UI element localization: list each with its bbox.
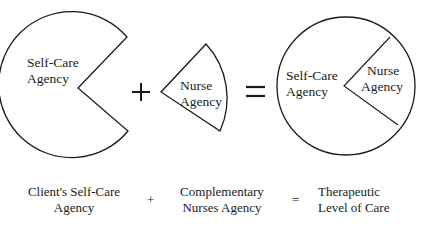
caption-therapeutic-line2: Level of Care [318,200,406,216]
self-care-label-line1: Self-Care [27,55,79,70]
caption-client-line2: Agency [18,200,130,216]
plus-operator-icon [132,83,150,101]
combined-nurse-label-line2: Agency [361,79,403,94]
caption-plus: + [147,192,154,208]
combined-self-care-label-line1: Self-Care [286,68,338,83]
caption-therapeutic-line1: Therapeutic [318,184,406,200]
caption-complementary-line1: Complementary [170,184,274,200]
caption-client-line1: Client's Self-Care [18,184,130,200]
combined-self-care-label-line2: Agency [286,84,328,99]
equals-operator-icon [246,87,265,96]
self-care-label-line2: Agency [27,71,69,86]
combined-nurse-label-line1: Nurse [367,63,399,78]
nurse-label-line2: Agency [180,94,222,109]
nurse-label-line1: Nurse [180,78,212,93]
caption-equals: = [292,192,299,208]
caption-complementary-line2: Nurses Agency [170,200,274,216]
